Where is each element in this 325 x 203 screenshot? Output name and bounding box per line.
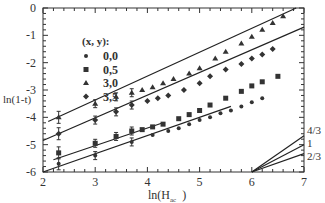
legend-entry: 3,0 <box>103 76 118 90</box>
x-tick-label: 3 <box>92 175 98 189</box>
y-tick-label: -6 <box>26 165 36 179</box>
legend-title: (x, y): <box>82 35 110 48</box>
x-tick-label: 2 <box>40 175 46 189</box>
y-tick-label: -2 <box>26 56 36 70</box>
diamond-marker <box>197 80 203 86</box>
reference-slope-label: 1 <box>307 137 313 149</box>
triangle-marker <box>83 80 89 85</box>
circle-marker <box>84 54 88 58</box>
x-tick-label: 6 <box>249 175 255 189</box>
square-marker <box>249 83 254 88</box>
triangle-marker <box>129 90 135 95</box>
square-marker <box>260 79 265 84</box>
reference-slope-line <box>252 136 304 172</box>
y-tick-label: 0 <box>30 1 36 15</box>
square-marker <box>56 150 61 155</box>
x-tick-label: 4 <box>144 175 150 189</box>
circle-marker <box>187 122 191 126</box>
square-marker <box>150 124 155 129</box>
square-marker <box>187 112 192 117</box>
square-marker <box>223 96 228 101</box>
circle-marker <box>218 111 222 115</box>
diamond-marker <box>92 117 98 123</box>
square-marker <box>197 108 202 113</box>
reference-slope-line <box>252 145 304 172</box>
circle-marker <box>229 109 233 113</box>
diamond-marker <box>249 56 255 62</box>
triangle-marker <box>259 27 265 32</box>
legend-entry: 0,5 <box>103 63 118 77</box>
circle-marker <box>177 126 181 130</box>
circle-marker <box>57 162 61 166</box>
legend-entry: 3,5 <box>103 90 118 104</box>
triangle-marker <box>212 56 218 61</box>
triangle-marker <box>223 49 229 54</box>
circle-marker <box>260 96 264 100</box>
triangle-marker <box>270 20 276 25</box>
x-axis-label: ln(Hac) <box>148 188 186 203</box>
reference-slope-line <box>252 154 304 172</box>
square-marker <box>129 129 134 134</box>
chart: 2345670-1-2-3-4-5-6 4/312/3 (x, y):0,00,… <box>0 0 325 203</box>
triangle-marker <box>197 65 203 70</box>
legend-entry: 0,0 <box>103 49 118 63</box>
plot-frame <box>43 8 304 172</box>
circle-marker <box>93 154 97 158</box>
diamond-marker <box>155 95 161 101</box>
y-tick-label: -1 <box>26 28 36 42</box>
triangle-marker <box>139 87 145 92</box>
square-marker <box>93 141 98 146</box>
square-marker <box>140 127 145 132</box>
circle-marker <box>198 118 202 122</box>
diamond-marker <box>165 92 171 98</box>
triangle-marker <box>186 71 192 76</box>
x-tick-label: 7 <box>301 175 307 189</box>
diamond-marker <box>83 94 89 100</box>
y-tick-label: -4 <box>26 110 36 124</box>
diamond-marker <box>270 46 276 52</box>
square-marker <box>114 134 119 139</box>
diamond-marker <box>238 61 244 67</box>
circle-marker <box>239 104 243 108</box>
circle-marker <box>208 115 212 119</box>
y-axis-label: ln(1-t) <box>3 93 31 106</box>
triangle-marker <box>238 41 244 46</box>
diamond-marker <box>144 98 150 104</box>
series-circle <box>43 96 264 172</box>
reference-slope-label: 2/3 <box>307 150 322 162</box>
square-marker <box>161 122 166 127</box>
diamond-marker <box>56 131 62 137</box>
legend: (x, y):0,00,53,03,5 <box>82 35 118 104</box>
data-series: 4/312/3 <box>43 8 322 172</box>
diamond-marker <box>259 51 265 57</box>
triangle-marker <box>171 76 177 81</box>
y-tick-label: -5 <box>26 138 36 152</box>
x-tick-label: 5 <box>197 175 203 189</box>
series-triangle <box>48 8 296 123</box>
triangle-marker <box>280 13 286 18</box>
diamond-marker <box>223 67 229 73</box>
circle-marker <box>130 140 134 144</box>
triangle-marker <box>150 84 156 89</box>
reference-slope-label: 4/3 <box>307 124 322 136</box>
triangle-marker <box>160 80 166 85</box>
circle-marker <box>166 129 170 133</box>
square-marker <box>208 103 213 108</box>
square-marker <box>84 67 89 72</box>
circle-marker <box>250 100 254 104</box>
diamond-marker <box>181 87 187 93</box>
square-marker <box>275 74 280 79</box>
circle-marker <box>151 133 155 137</box>
fit-line <box>43 106 231 172</box>
diamond-marker <box>207 73 213 79</box>
square-marker <box>239 89 244 94</box>
triangle-marker <box>249 34 255 39</box>
fit-line <box>48 8 296 121</box>
square-marker <box>176 116 181 121</box>
